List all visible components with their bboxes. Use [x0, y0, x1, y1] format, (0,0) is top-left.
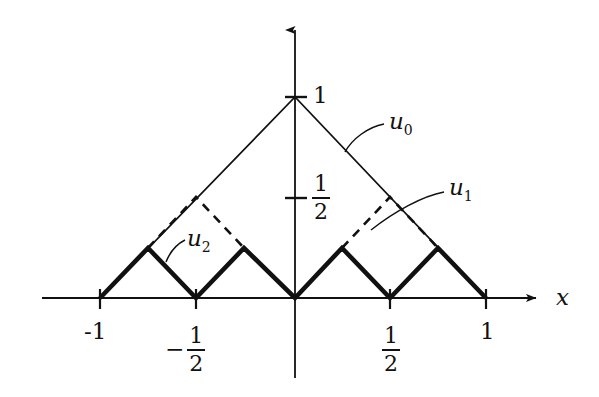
- x-tick-label-half: 1 2: [382, 324, 400, 376]
- curve-label-base: u: [187, 225, 202, 251]
- y-tick-label-one: 1: [313, 84, 328, 107]
- curve-label-base: u: [449, 174, 464, 200]
- fraction-numerator: 1: [187, 324, 205, 347]
- curve-label-sub: 2: [202, 239, 211, 255]
- curve-label-sub: 1: [464, 188, 473, 204]
- x-axis-label: x: [556, 286, 569, 309]
- fraction-numerator: 1: [312, 172, 330, 195]
- fraction-one-half-xpos: 1 2: [382, 324, 400, 376]
- leader-u1: [371, 192, 444, 230]
- curve-label-base: u: [389, 108, 404, 134]
- fraction-one-half-xneg: 1 2: [187, 324, 205, 376]
- fraction-numerator: 1: [382, 324, 400, 347]
- x-tick-label-one: 1: [480, 320, 495, 343]
- y-tick-label-half: 1 2: [312, 172, 330, 224]
- hat-function-figure: x 1 1 2 -1 − 1 2 1 2 1 u0 u1: [0, 0, 599, 397]
- leader-u2: [166, 240, 185, 262]
- x-tick-label-minus-one: -1: [84, 320, 106, 343]
- curve-u2: [100, 248, 486, 298]
- curve-label-u1: u1: [449, 176, 473, 203]
- minus-sign: −: [165, 338, 184, 361]
- curve-label-sub: 0: [404, 122, 413, 138]
- fraction-denominator: 2: [382, 352, 400, 375]
- fraction-denominator: 2: [312, 200, 330, 223]
- signed-fraction-minus-one-half: − 1 2: [165, 324, 205, 376]
- leader-u0: [345, 124, 384, 152]
- x-tick-label-minus-half: − 1 2: [165, 324, 205, 376]
- curve-label-u2: u2: [187, 227, 211, 254]
- curve-label-u0: u0: [389, 110, 413, 137]
- fraction-denominator: 2: [187, 352, 205, 375]
- fraction-one-half-y: 1 2: [312, 172, 330, 224]
